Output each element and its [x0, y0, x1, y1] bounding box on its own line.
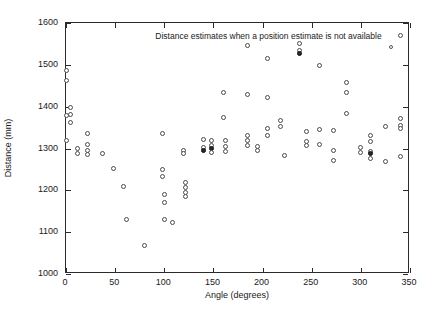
y-tick-label-1500: 1500 [38, 59, 58, 69]
data-point [383, 124, 388, 129]
data-point [383, 159, 388, 164]
y-tick-right-1100 [403, 232, 408, 233]
data-point [121, 184, 126, 189]
data-point [64, 138, 69, 143]
data-point [344, 111, 349, 116]
data-point [160, 167, 165, 172]
data-point [64, 68, 69, 73]
data-point [85, 142, 90, 147]
data-point [331, 128, 336, 133]
x-tick-label-200: 200 [254, 277, 269, 287]
y-tick-right-1200 [403, 190, 408, 191]
y-tick-label-1200: 1200 [38, 184, 58, 194]
y-tick-1300 [66, 149, 71, 150]
y-tick-1100 [66, 232, 71, 233]
data-point [245, 92, 250, 97]
data-point [111, 166, 116, 171]
x-tick-label-0: 0 [62, 277, 67, 287]
x-tick-0 [66, 268, 67, 273]
data-point [282, 153, 287, 158]
data-point [304, 129, 309, 134]
x-tick-350 [410, 268, 411, 273]
x-tick-label-100: 100 [156, 277, 171, 287]
data-point [398, 116, 403, 121]
data-point [368, 133, 373, 138]
data-point [265, 126, 270, 131]
data-point [85, 131, 90, 136]
x-tick-label-350: 350 [401, 277, 416, 287]
y-tick-1500 [66, 65, 71, 66]
x-tick-top-300 [361, 23, 362, 28]
data-point [221, 115, 226, 120]
y-tick-1000 [66, 274, 71, 275]
y-tick-label-1000: 1000 [38, 268, 58, 278]
y-tick-right-1600 [403, 23, 408, 24]
data-point [201, 148, 206, 153]
x-tick-100 [164, 268, 165, 273]
data-point [297, 51, 302, 56]
data-point [68, 105, 73, 110]
x-tick-150 [213, 268, 214, 273]
x-tick-top-350 [410, 23, 411, 28]
x-axis-label: Angle (degrees) [205, 290, 269, 300]
data-point [255, 148, 260, 153]
data-point [358, 145, 363, 150]
data-point [162, 217, 167, 222]
data-point [265, 133, 270, 138]
y-tick-right-1400 [403, 107, 408, 108]
data-point [245, 143, 250, 148]
data-point [398, 154, 403, 159]
data-point [201, 137, 206, 142]
x-tick-top-100 [164, 23, 165, 28]
data-point [124, 217, 129, 222]
data-point [278, 118, 283, 123]
data-point [160, 131, 165, 136]
data-point [368, 156, 373, 161]
data-point [317, 142, 322, 147]
y-tick-right-1300 [403, 149, 408, 150]
data-point [100, 151, 105, 156]
data-point [331, 148, 336, 153]
data-point [170, 220, 175, 225]
y-tick-1600 [66, 23, 71, 24]
legend-marker-icon [389, 35, 393, 53]
data-point [331, 158, 336, 163]
x-tick-label-250: 250 [303, 277, 318, 287]
x-tick-200 [263, 268, 264, 273]
x-tick-top-250 [312, 23, 313, 28]
y-axis-label: Distance (mm) [3, 119, 13, 178]
plot-area [65, 22, 409, 273]
x-tick-top-200 [263, 23, 264, 28]
x-tick-50 [115, 268, 116, 273]
x-tick-300 [361, 268, 362, 273]
x-tick-label-150: 150 [205, 277, 220, 287]
data-point [344, 90, 349, 95]
x-tick-top-50 [115, 23, 116, 28]
data-point [398, 126, 403, 131]
data-point [64, 78, 69, 83]
y-tick-1200 [66, 190, 71, 191]
x-tick-top-150 [213, 23, 214, 28]
y-tick-label-1100: 1100 [39, 226, 58, 236]
data-point [344, 80, 349, 85]
data-point [223, 149, 228, 154]
data-point [162, 192, 167, 197]
data-point [160, 174, 165, 179]
y-tick-label-1300: 1300 [38, 143, 58, 153]
data-point [368, 139, 373, 144]
data-point [245, 43, 250, 48]
data-point [265, 56, 270, 61]
data-point [68, 112, 73, 117]
data-point [358, 150, 363, 155]
x-tick-250 [312, 268, 313, 273]
data-point [209, 150, 214, 155]
data-point [181, 151, 186, 156]
data-point [68, 120, 73, 125]
legend-label: Distance estimates when a position estim… [155, 31, 381, 41]
data-point [142, 243, 147, 248]
data-point [398, 33, 403, 38]
data-point [278, 124, 283, 129]
y-tick-label-1400: 1400 [38, 101, 58, 111]
data-point [75, 151, 80, 156]
scatter-plot-figure: Distance (mm) Angle (degrees) Distance e… [0, 0, 432, 319]
